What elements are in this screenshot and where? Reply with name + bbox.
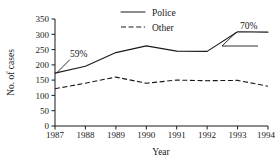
y-axis-ticks [52,19,56,126]
x-axis-tick-labels: 1987 1988 1989 1990 1991 1992 1993 1994 [46,130,276,140]
legend-entry-other: Other [121,23,174,33]
x-tick-label-1988: 1988 [76,130,95,140]
x-tick-label-1993: 1993 [229,130,248,140]
x-tick-label-1991: 1991 [168,130,186,140]
x-tick-label-1989: 1989 [107,130,126,140]
chart-canvas: Police Other [0,0,277,163]
annotation-label-70: 70% [240,21,258,31]
legend-label-police: Police [152,8,176,18]
series-line-other [55,77,268,89]
y-tick-label-300: 300 [36,30,50,40]
annotation-leader-70 [222,33,236,47]
y-tick-label-250: 250 [36,45,50,55]
y-tick-label-100: 100 [36,91,50,101]
annotation-70-percent: 70% [222,21,258,46]
chart-legend: Police Other [121,8,176,33]
x-axis-title: Year [152,147,170,157]
y-tick-label-200: 200 [36,60,50,70]
legend-entry-police: Police [121,8,176,18]
legend-label-other: Other [152,23,174,33]
x-tick-label-1994: 1994 [257,130,276,140]
y-tick-label-150: 150 [36,75,50,85]
x-axis-ticks [55,126,268,130]
chart-axes: 350 300 250 200 150 100 50 0 [6,14,276,157]
x-tick-label-1987: 1987 [46,130,65,140]
y-axis-title: No. of cases [6,49,16,96]
line-chart: Police Other [0,0,277,163]
x-tick-label-1990: 1990 [137,130,156,140]
y-axis-tick-labels: 350 300 250 200 150 100 50 0 [36,14,50,131]
annotation-label-59: 59% [70,49,88,59]
y-tick-label-350: 350 [36,14,50,24]
x-tick-label-1992: 1992 [198,130,216,140]
y-tick-label-50: 50 [40,106,50,116]
